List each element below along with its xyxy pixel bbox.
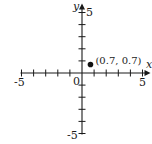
origin-label: 0 (73, 75, 80, 88)
data-point (88, 62, 94, 68)
data-point-label: (0.7, 0.7) (95, 55, 141, 66)
y-tick-label-max: 5 (86, 6, 93, 19)
axes (21, 4, 151, 135)
y-axis-label: y (72, 0, 80, 13)
coordinate-plane: x y -5 0 5 5 -5 (0.7, 0.7) (0, 0, 152, 144)
y-arrow-icon (79, 4, 85, 10)
x-tick-label-min: -5 (14, 76, 25, 89)
y-tick-label-min: -5 (67, 129, 78, 142)
x-axis-label: x (146, 58, 152, 71)
x-tick-label-max: 5 (139, 76, 146, 89)
